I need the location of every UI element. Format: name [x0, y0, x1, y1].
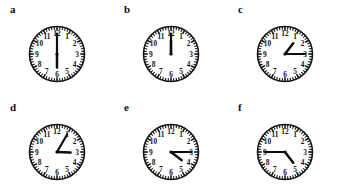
minute-tick — [165, 176, 166, 179]
hour-number: 1 — [65, 32, 69, 41]
clock-panel-d: d123456789101112 — [0, 98, 114, 196]
minute-tick — [258, 157, 261, 158]
minute-tick — [290, 125, 291, 128]
center-hub — [55, 150, 58, 153]
hour-number: 10 — [150, 137, 158, 146]
minute-tick — [309, 146, 312, 147]
hour-number: 6 — [55, 168, 59, 177]
hour-number: 6 — [169, 168, 173, 177]
minute-tick — [81, 48, 84, 49]
clock-face: 123456789101112 — [25, 22, 89, 86]
hour-number: 9 — [263, 50, 267, 59]
minute-tick — [165, 27, 166, 30]
clock-f: 123456789101112 — [253, 120, 317, 184]
minute-tick — [144, 146, 147, 147]
minute-tick — [62, 125, 63, 128]
minute-tick — [62, 176, 63, 179]
hour-number: 3 — [303, 148, 307, 157]
hour-number: 2 — [187, 39, 191, 48]
hour-number: 7 — [45, 67, 49, 76]
hour-number: 8 — [152, 60, 156, 69]
hour-hand — [57, 152, 70, 153]
minute-tick — [144, 48, 147, 49]
hour-number: 3 — [189, 50, 193, 59]
hour-number: 12 — [281, 127, 289, 136]
clock-panel-b: b123456789101112 — [114, 0, 228, 98]
hour-number: 5 — [65, 67, 69, 76]
panel-label-f: f — [238, 102, 242, 113]
minute-tick — [290, 176, 291, 179]
minute-tick — [176, 27, 177, 30]
hour-number: 4 — [73, 158, 77, 167]
minute-tick — [30, 59, 33, 60]
clock-panel-f: f123456789101112 — [228, 98, 342, 196]
hour-number: 3 — [75, 148, 79, 157]
hour-number: 4 — [187, 158, 191, 167]
hour-number: 7 — [273, 67, 277, 76]
minute-tick — [30, 157, 33, 158]
panel-label-c: c — [238, 4, 243, 15]
hour-number: 10 — [36, 39, 44, 48]
hour-number: 8 — [266, 158, 270, 167]
clock-face: 123456789101112 — [139, 22, 203, 86]
panel-label-d: d — [10, 102, 16, 113]
hour-number: 2 — [301, 137, 305, 146]
clock-a: 123456789101112 — [25, 22, 89, 86]
hour-number: 7 — [45, 165, 49, 174]
hour-number: 3 — [75, 50, 79, 59]
minute-tick — [51, 78, 52, 81]
hour-number: 4 — [73, 60, 77, 69]
minute-tick — [165, 125, 166, 128]
hour-number: 5 — [179, 67, 183, 76]
minute-tick — [81, 157, 84, 158]
panel-label-e: e — [124, 102, 129, 113]
hour-number: 12 — [281, 29, 289, 38]
hour-number: 1 — [293, 130, 297, 139]
hour-number: 4 — [301, 158, 305, 167]
center-hub — [169, 150, 172, 153]
hour-number: 4 — [187, 60, 191, 69]
hour-number: 8 — [152, 158, 156, 167]
hour-number: 12 — [53, 127, 61, 136]
minute-tick — [62, 78, 63, 81]
minute-tick — [51, 27, 52, 30]
clock-d: 123456789101112 — [25, 120, 89, 184]
hour-number: 9 — [149, 50, 153, 59]
hour-number: 1 — [179, 32, 183, 41]
minute-tick — [176, 125, 177, 128]
hour-number: 10 — [264, 137, 272, 146]
minute-tick — [176, 176, 177, 179]
clock-face: 123456789101112 — [25, 120, 89, 184]
hour-number: 10 — [36, 137, 44, 146]
panel-label-b: b — [124, 4, 130, 15]
minute-tick — [144, 157, 147, 158]
hour-number: 11 — [157, 32, 164, 41]
minute-tick — [62, 27, 63, 30]
hour-number: 2 — [301, 39, 305, 48]
minute-tick — [195, 157, 198, 158]
center-hub — [283, 150, 286, 153]
hour-number: 11 — [271, 32, 278, 41]
hour-number: 6 — [169, 70, 173, 79]
hour-number: 8 — [38, 60, 42, 69]
minute-tick — [279, 27, 280, 30]
hour-number: 11 — [271, 130, 278, 139]
minute-tick — [279, 125, 280, 128]
hour-number: 9 — [35, 148, 39, 157]
hour-number: 11 — [157, 130, 164, 139]
hour-number: 5 — [293, 67, 297, 76]
minute-tick — [258, 48, 261, 49]
minute-tick — [279, 176, 280, 179]
hour-number: 11 — [43, 32, 50, 41]
minute-tick — [290, 27, 291, 30]
clock-panel-c: c123456789101112 — [228, 0, 342, 98]
minute-tick — [309, 48, 312, 49]
minute-tick — [165, 78, 166, 81]
hour-number: 6 — [55, 70, 59, 79]
clock-c: 123456789101112 — [253, 22, 317, 86]
minute-tick — [30, 146, 33, 147]
minute-tick — [258, 59, 261, 60]
hour-number: 2 — [73, 39, 77, 48]
minute-tick — [290, 78, 291, 81]
worksheet-sheet: a123456789101112b123456789101112c1234567… — [0, 0, 342, 196]
